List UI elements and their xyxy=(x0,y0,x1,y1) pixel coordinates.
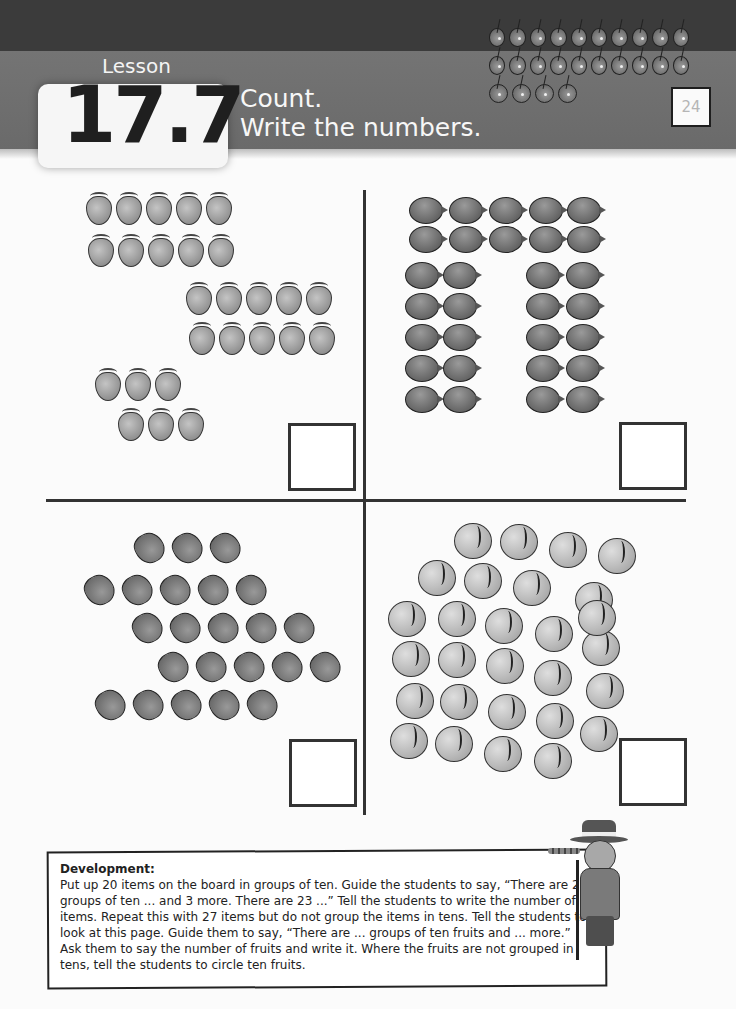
development-body: Put up 20 items on the board in groups o… xyxy=(60,877,590,973)
plum-icon xyxy=(405,355,439,382)
fig-icon xyxy=(242,608,281,647)
plum-icon xyxy=(526,293,560,320)
plum-icon xyxy=(566,293,600,320)
answer-box-figs[interactable] xyxy=(289,739,357,807)
plum-icon xyxy=(567,197,601,224)
fig-icon xyxy=(192,647,231,686)
cherry-icon xyxy=(611,28,627,47)
cherry-icon xyxy=(673,28,689,47)
plum-icon xyxy=(526,355,560,382)
peach-icon xyxy=(438,601,476,637)
fig-icon xyxy=(168,528,207,567)
cherry-icon xyxy=(530,56,546,75)
page-number-badge: 24 xyxy=(671,87,711,127)
strawberry-icon xyxy=(146,196,172,225)
strawberry-icon xyxy=(189,326,215,355)
peach-icon xyxy=(440,684,478,720)
strawberry-icon xyxy=(306,286,332,315)
plum-icon xyxy=(409,197,443,224)
fig-icon xyxy=(230,647,269,686)
answer-box-plums[interactable] xyxy=(619,422,687,490)
plum-icon xyxy=(526,262,560,289)
peach-icon xyxy=(580,716,618,752)
cherry-counter-illustration xyxy=(489,18,689,102)
cherry-icon xyxy=(591,28,607,47)
cherry-icon xyxy=(509,28,525,47)
peach-icon xyxy=(390,723,428,759)
plum-icon xyxy=(489,197,523,224)
peach-icon xyxy=(513,570,551,606)
page-number: 24 xyxy=(681,98,700,116)
peach-icon xyxy=(488,694,526,730)
strawberry-icon xyxy=(246,286,272,315)
peach-icon xyxy=(392,641,430,677)
fig-icon xyxy=(194,570,233,609)
plum-icon xyxy=(566,386,600,413)
cherry-icon xyxy=(571,56,587,75)
strawberry-icon xyxy=(208,238,234,267)
cherry-icon xyxy=(530,28,546,47)
strawberry-icon xyxy=(216,286,242,315)
fig-icon xyxy=(118,570,157,609)
plum-icon xyxy=(449,226,483,253)
peach-icon xyxy=(464,563,502,599)
development-title: Development: xyxy=(60,862,155,876)
plum-icon xyxy=(449,197,483,224)
cherry-icon xyxy=(489,28,505,47)
strawberry-icon xyxy=(95,372,121,401)
peach-icon xyxy=(484,736,522,772)
plum-icon xyxy=(529,226,563,253)
cherry-icon xyxy=(512,84,531,103)
title-line-2: Write the numbers. xyxy=(240,113,481,142)
fig-icon xyxy=(166,608,205,647)
plum-icon xyxy=(443,262,477,289)
legs xyxy=(586,916,614,946)
peach-icon xyxy=(598,538,636,574)
plum-icon xyxy=(526,324,560,351)
plum-icon xyxy=(567,226,601,253)
body xyxy=(580,868,620,920)
fig-icon xyxy=(205,685,244,724)
plum-icon xyxy=(566,324,600,351)
plum-icon xyxy=(529,197,563,224)
rope-icon xyxy=(548,848,580,854)
cherry-icon xyxy=(509,56,525,75)
plum-icon xyxy=(443,386,477,413)
peach-icon xyxy=(418,560,456,596)
strawberry-icon xyxy=(118,412,144,441)
strawberry-icon xyxy=(249,326,275,355)
cherry-icon xyxy=(571,28,587,47)
peach-icon xyxy=(535,616,573,652)
cherry-icon xyxy=(632,28,648,47)
cherry-icon xyxy=(591,56,607,75)
strawberry-icon xyxy=(148,412,174,441)
plum-icon xyxy=(405,262,439,289)
pole xyxy=(576,860,579,960)
strawberry-icon xyxy=(219,326,245,355)
strawberry-icon xyxy=(86,196,112,225)
strawberry-icon xyxy=(176,196,202,225)
cherry-icon xyxy=(611,56,627,75)
strawberry-icon xyxy=(178,238,204,267)
page-title: Count. Write the numbers. xyxy=(240,84,481,142)
peach-icon xyxy=(549,532,587,568)
plum-icon xyxy=(405,293,439,320)
plum-icon xyxy=(443,324,477,351)
strawberry-icon xyxy=(206,196,232,225)
cherry-icon xyxy=(489,56,505,75)
title-line-1: Count. xyxy=(240,84,481,113)
strawberry-icon xyxy=(155,372,181,401)
strawberry-icon xyxy=(118,238,144,267)
farmer-mascot-icon xyxy=(568,810,628,950)
strawberry-icon xyxy=(125,372,151,401)
cherry-icon xyxy=(652,28,668,47)
cherry-icon xyxy=(535,84,554,103)
cherry-icon xyxy=(652,56,668,75)
answer-box-peaches[interactable] xyxy=(619,738,687,806)
fig-icon xyxy=(243,685,282,724)
answer-box-strawberries[interactable] xyxy=(288,423,356,491)
fig-icon xyxy=(206,528,245,567)
strawberry-icon xyxy=(279,326,305,355)
plum-icon xyxy=(405,324,439,351)
cherry-icon xyxy=(673,56,689,75)
